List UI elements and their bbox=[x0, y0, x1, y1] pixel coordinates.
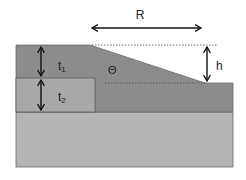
t2-label-subscript: 2 bbox=[61, 96, 66, 105]
theta-label: Θ bbox=[108, 64, 117, 76]
r-label: R bbox=[136, 8, 145, 22]
t1-label-subscript: 1 bbox=[61, 65, 66, 74]
layer-step-diagram: R h Θ t1 t2 bbox=[0, 0, 246, 180]
inner-block bbox=[16, 78, 95, 112]
substrate bbox=[16, 112, 233, 167]
h-label: h bbox=[216, 59, 223, 73]
